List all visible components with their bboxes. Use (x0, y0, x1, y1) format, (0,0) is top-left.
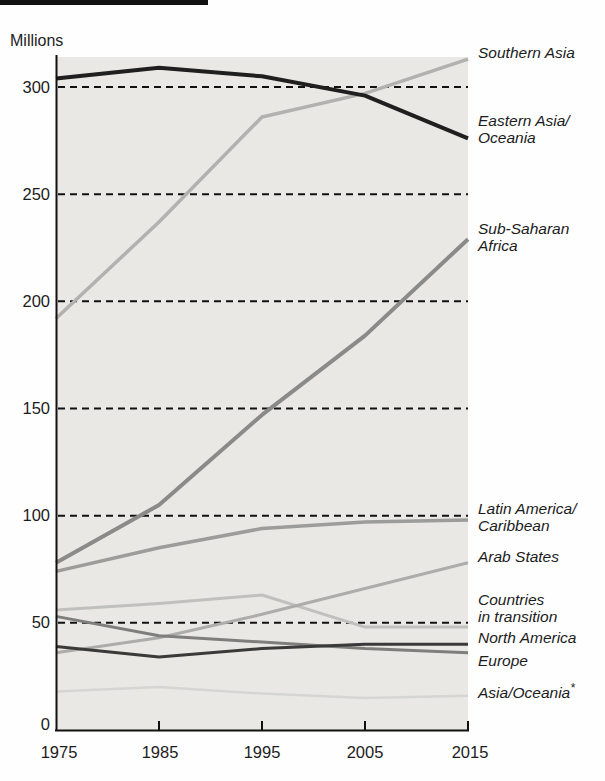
asia-oceania-footnote-star: * (570, 681, 575, 695)
x-tick-label-1995: 1995 (232, 743, 292, 761)
series-line-southern-asia (56, 59, 468, 318)
x-tick-label-1975: 1975 (29, 743, 89, 761)
series-label-arab-states: Arab States (478, 548, 603, 565)
series-label-southern-asia: Southern Asia (478, 44, 603, 61)
y-tick-label-150: 150 (6, 399, 50, 417)
series-line-arab-states (56, 563, 468, 653)
series-label-north-america: North America (478, 629, 603, 646)
series-label-latin-america-caribbean: Latin America/ Caribbean (478, 500, 603, 534)
y-tick-label-100: 100 (6, 506, 50, 524)
series-label-eastern-asia-oceania: Eastern Asia/ Oceania (478, 112, 603, 146)
y-tick-label-250: 250 (6, 185, 50, 203)
x-tick-label-1985: 1985 (130, 743, 190, 761)
x-tick-label-2015: 2015 (440, 743, 500, 761)
series-line-asia-oceania (56, 687, 468, 698)
x-tick-label-2005: 2005 (335, 743, 395, 761)
figure-page: Millions 300 250 200 150 100 50 0 1975 1… (0, 0, 605, 781)
series-line-sub-saharan-africa (56, 239, 468, 563)
series-label-sub-saharan-africa: Sub-Saharan Africa (478, 220, 603, 254)
series-label-countries-in-transition: Countries in transition (478, 591, 603, 625)
series-label-europe: Europe (478, 652, 603, 669)
series-label-asia-oceania: Asia/Oceania* (478, 680, 603, 701)
y-tick-label-300: 300 (6, 78, 50, 96)
y-tick-label-50: 50 (6, 613, 50, 631)
series-label-asia-oceania-text: Asia/Oceania (478, 684, 570, 701)
y-tick-label-200: 200 (6, 292, 50, 310)
y-tick-label-0: 0 (6, 715, 50, 733)
